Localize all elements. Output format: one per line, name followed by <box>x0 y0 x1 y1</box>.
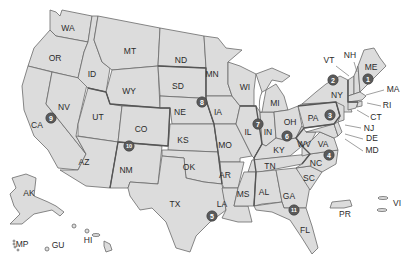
state-label-NJ: NJ <box>364 123 374 133</box>
state-VT[interactable] <box>348 76 354 96</box>
us-map: WAORIDMTWYCANVUTCOAZNMNDSDNEKSOKTXMNIAMO… <box>0 0 408 272</box>
state-NM[interactable] <box>110 142 162 188</box>
territory-VI-shape-2[interactable] <box>377 209 387 212</box>
leader-line-NJ <box>345 125 361 128</box>
state-label-CO: CO <box>135 124 148 134</box>
marker-2[interactable]: 2 <box>328 75 338 85</box>
state-label-SC: SC <box>303 173 315 183</box>
state-label-TN: TN <box>264 161 275 171</box>
state-label-FL: FL <box>300 225 310 235</box>
marker-3[interactable]: 3 <box>325 110 335 120</box>
state-label-KY: KY <box>273 145 285 155</box>
state-label-RI: RI <box>383 100 392 110</box>
territory-label-MP: MP <box>16 239 29 249</box>
marker-number: 1 <box>366 76 370 83</box>
leader-line-MD <box>345 139 363 151</box>
territory-GU-shape[interactable] <box>45 247 49 251</box>
state-label-MS: MS <box>237 189 250 199</box>
state-label-MT: MT <box>124 46 136 56</box>
leader-line-VT <box>336 66 349 76</box>
state-label-KS: KS <box>177 135 189 145</box>
state-label-DE: DE <box>366 133 378 143</box>
territory-label-GU: GU <box>52 240 65 250</box>
state-label-WA: WA <box>61 23 75 33</box>
state-label-MO: MO <box>218 140 232 150</box>
state-label-UT: UT <box>92 112 103 122</box>
marker-number: 11 <box>291 207 297 213</box>
state-label-CA: CA <box>31 120 43 130</box>
marker-4[interactable]: 4 <box>324 150 334 160</box>
state-label-TX: TX <box>170 199 181 209</box>
territory-label-PR: PR <box>339 209 351 219</box>
leader-line-NH <box>354 62 357 72</box>
state-label-NY: NY <box>331 90 343 100</box>
marker-number: 8 <box>200 99 204 106</box>
state-label-ID: ID <box>88 69 97 79</box>
state-label-OH: OH <box>284 117 297 127</box>
state-label-IN: IN <box>264 127 273 137</box>
state-label-CT: CT <box>370 112 381 122</box>
marker-number: 7 <box>256 121 260 128</box>
marker-5[interactable]: 5 <box>207 211 217 221</box>
leader-line-RI <box>367 103 381 106</box>
state-label-ND: ND <box>175 55 187 65</box>
state-label-MA: MA <box>387 84 400 94</box>
state-label-MD: MD <box>365 145 378 155</box>
state-label-AZ: AZ <box>79 157 90 167</box>
state-label-LA: LA <box>217 199 228 209</box>
state-label-WV: WV <box>297 139 311 149</box>
state-label-VT: VT <box>324 55 335 65</box>
territory-PR-shape[interactable] <box>330 200 352 208</box>
marker-8[interactable]: 8 <box>197 97 207 107</box>
state-AK[interactable] <box>10 174 64 224</box>
territory-label-VI: VI <box>393 198 401 208</box>
marker-number: 10 <box>126 143 132 149</box>
state-label-AK: AK <box>23 188 35 198</box>
marker-1[interactable]: 1 <box>363 74 373 84</box>
marker-10[interactable]: 10 <box>124 141 134 151</box>
territory-VI-shape-1[interactable] <box>378 197 388 200</box>
state-label-ME: ME <box>365 62 378 72</box>
marker-number: 9 <box>49 115 53 122</box>
state-label-IA: IA <box>214 107 222 117</box>
state-label-WI: WI <box>240 82 250 92</box>
state-label-NM: NM <box>119 165 132 175</box>
marker-number: 2 <box>331 77 335 84</box>
state-label-NH: NH <box>344 50 356 60</box>
state-label-MN: MN <box>205 69 218 79</box>
state-label-NV: NV <box>58 102 70 112</box>
state-MT[interactable] <box>94 16 160 70</box>
marker-6[interactable]: 6 <box>282 131 292 141</box>
marker-9[interactable]: 9 <box>46 113 56 123</box>
marker-number: 4 <box>327 152 331 159</box>
leader-line-CT <box>357 110 369 117</box>
state-label-OK: OK <box>183 162 196 172</box>
state-label-IL: IL <box>244 127 251 137</box>
state-label-WY: WY <box>122 86 136 96</box>
leader-line-DE <box>345 134 363 139</box>
marker-11[interactable]: 11 <box>289 205 299 215</box>
marker-number: 3 <box>328 112 332 119</box>
state-label-PA: PA <box>308 113 319 123</box>
state-label-SD: SD <box>172 81 184 91</box>
state-label-AL: AL <box>259 187 270 197</box>
leader-line-MA <box>366 90 384 95</box>
state-label-VA: VA <box>318 139 329 149</box>
state-label-HI: HI <box>84 235 93 245</box>
state-label-OR: OR <box>49 53 62 63</box>
state-CT[interactable] <box>348 102 358 110</box>
state-label-AR: AR <box>219 170 231 180</box>
marker-number: 6 <box>285 133 289 140</box>
state-label-MI: MI <box>270 98 279 108</box>
state-KS[interactable] <box>168 124 218 152</box>
marker-number: 5 <box>210 213 214 220</box>
state-label-NC: NC <box>310 158 322 168</box>
state-shapes <box>22 10 386 254</box>
state-label-GA: GA <box>283 191 296 201</box>
marker-7[interactable]: 7 <box>253 119 263 129</box>
state-label-NE: NE <box>174 107 186 117</box>
